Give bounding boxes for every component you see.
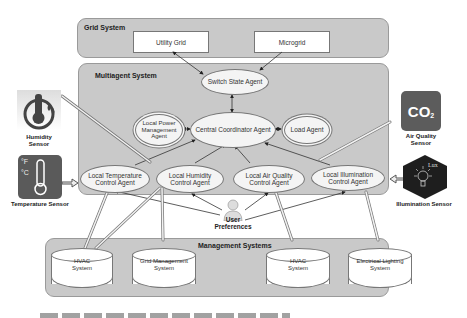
illumination-sensor-icon: Lux: [402, 154, 448, 200]
lux-label: Lux: [428, 162, 438, 168]
hvac-system-label-1: HVAC System: [51, 258, 113, 272]
switch-state-agent: Switch State Agent: [201, 69, 269, 95]
temperature-sensor-icon: °F °C: [18, 155, 62, 199]
central-coordinator-agent: Central Coordinator Agent: [190, 112, 276, 148]
air-quality-sensor-icon: CO2: [401, 91, 441, 131]
grid-management-system-cylinder: Grid Management System: [132, 248, 196, 288]
local-illumination-control-agent: Local Illumination Control Agent: [311, 165, 385, 191]
local-temperature-control-agent: Local Temperature Control Agent: [80, 165, 150, 193]
electrical-lighting-system-label: Electrical Lighting System: [348, 258, 412, 272]
load-agent: Load Agent: [284, 116, 330, 144]
humidity-sensor-icon: [17, 90, 61, 130]
user-preferences-label: User Preferences: [208, 216, 258, 231]
temperature-sensor-label: Temperature Sensor: [10, 201, 70, 208]
local-power-management-agent: Local Power Management Agent: [135, 114, 183, 146]
grid-management-system-label: Grid Management System: [132, 258, 196, 272]
figure-caption-cropped: [40, 313, 290, 318]
co2-subscript: 2: [430, 112, 434, 119]
electrical-lighting-system-cylinder: Electrical Lighting System: [348, 248, 412, 288]
local-air-quality-control-agent: Local Air Quality Control Agent: [233, 165, 305, 193]
local-humidity-control-agent: Local Humidity Control Agent: [156, 165, 224, 193]
illumination-sensor-label: Illumination Sensor: [396, 201, 452, 208]
co2-glyph: CO: [408, 103, 431, 120]
hvac-system-label-2: HVAC System: [266, 258, 330, 272]
hvac-system-cylinder-1: HVAC System: [51, 248, 113, 288]
humidity-sensor-label: Humidity Sensor: [16, 134, 62, 148]
hvac-system-cylinder-2: HVAC System: [266, 248, 330, 288]
air-quality-sensor-label: Air Quality Sensor: [396, 133, 446, 147]
